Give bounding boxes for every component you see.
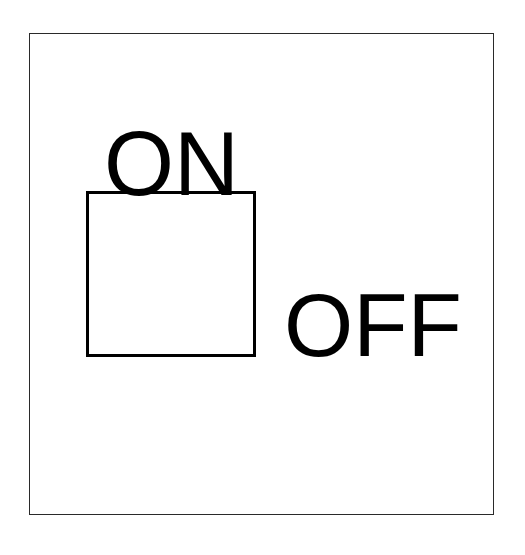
switch-square — [86, 191, 256, 357]
on-label: ON — [104, 119, 239, 209]
off-label: OFF — [284, 281, 462, 370]
